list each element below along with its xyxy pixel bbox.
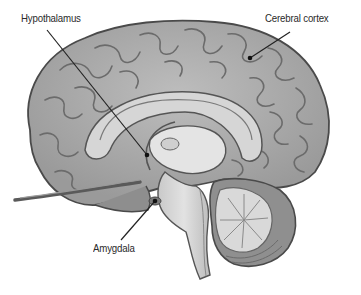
brain-diagram: Hypothalamus Cerebral cortex Amygdala: [0, 0, 361, 295]
brainstem: [158, 172, 210, 279]
label-cerebral-cortex: Cerebral cortex: [265, 12, 329, 24]
brain-illustration: [0, 0, 361, 295]
cerebellum: [210, 179, 296, 267]
label-hypothalamus: Hypothalamus: [21, 12, 81, 24]
label-amygdala: Amygdala: [93, 242, 135, 254]
